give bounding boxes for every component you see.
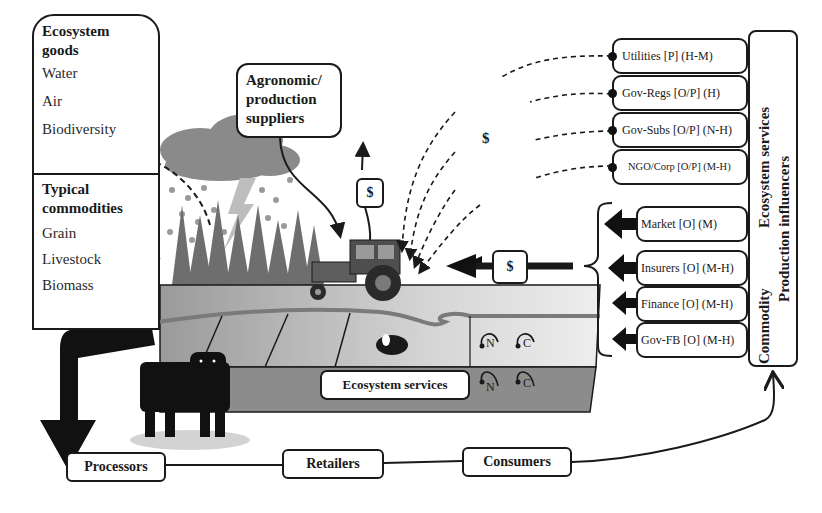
commodity-item-biomass: Biomass: [42, 276, 94, 295]
influencer-label: Insurers [O] (M-H): [641, 261, 734, 275]
goods-item-water: Water: [42, 64, 77, 83]
panel-divider: [34, 173, 158, 175]
typical-commodities-title-line2: commodities: [42, 199, 123, 218]
field-ecosystem-services-label: Ecosystem services: [320, 370, 470, 400]
influencer-payment-label: $: [482, 130, 490, 147]
goods-item-biodiversity: Biodiversity: [42, 120, 116, 139]
processors-box: Processors: [66, 452, 166, 482]
agronomic-suppliers-line2: production: [246, 90, 332, 109]
supplier-payment-box: $: [356, 178, 384, 208]
influencer-label: Gov-Subs [O/P] (N-H): [622, 123, 732, 137]
agronomic-suppliers-line3: suppliers: [246, 109, 332, 128]
ecosystem-goods-title-line2: goods: [42, 41, 79, 60]
commodity-item-grain: Grain: [42, 224, 76, 243]
goods-and-commodities-panel: Ecosystem goods Water Air Biodiversity T…: [32, 14, 160, 330]
influencer-label: NGO/Corp [O/P] (M-H): [628, 161, 731, 172]
influencer-gov-regs: Gov-Regs [O/P] (H): [612, 75, 748, 111]
nutrient-cycle-arrows: [474, 326, 564, 406]
commodity-flow-arrow: [40, 318, 155, 470]
influencer-label: Gov-Regs [O/P] (H): [622, 86, 720, 100]
influencer-market: Market [O] (M): [636, 206, 748, 242]
connector-dot-icon: [608, 126, 617, 135]
influencer-gov-fb: Gov-FB [O] (M-H): [636, 322, 748, 358]
influencer-insurers: Insurers [O] (M-H): [636, 250, 748, 286]
commodity-side-label: Commodity: [756, 288, 773, 364]
agronomic-suppliers-box: Agronomic/ production suppliers: [236, 63, 342, 138]
influencer-utilities: Utilities [P] (H-M): [612, 38, 748, 74]
production-influencers-side-label: Production influencers: [776, 156, 793, 302]
connector-dot-icon: [608, 52, 617, 61]
influencer-label: Utilities [P] (H-M): [622, 49, 713, 63]
commodity-item-livestock: Livestock: [42, 250, 101, 269]
influencer-ngo-corp: NGO/Corp [O/P] (M-H): [612, 149, 748, 185]
agronomic-suppliers-line1: Agronomic/: [246, 71, 332, 90]
influencer-finance: Finance [O] (M-H): [636, 286, 748, 322]
production-influencers-box: Ecosystem services Commodity Production …: [748, 30, 798, 367]
typical-commodities-title: Typical: [42, 180, 89, 199]
ecosystem-services-side-label: Ecosystem services: [756, 107, 773, 228]
retailers-box: Retailers: [282, 449, 384, 479]
ecosystem-goods-title: Ecosystem: [42, 22, 110, 41]
connector-dot-icon: [608, 89, 617, 98]
influencer-gov-subs: Gov-Subs [O/P] (N-H): [612, 112, 748, 148]
consumers-box: Consumers: [462, 447, 572, 477]
connector-dot-icon: [608, 163, 617, 172]
commodity-payment-box: $: [492, 250, 528, 284]
influencer-label: Finance [O] (M-H): [641, 297, 733, 311]
influencer-label: Market [O] (M): [641, 217, 717, 231]
influencer-label: Gov-FB [O] (M-H): [641, 333, 734, 347]
goods-item-air: Air: [42, 92, 62, 111]
